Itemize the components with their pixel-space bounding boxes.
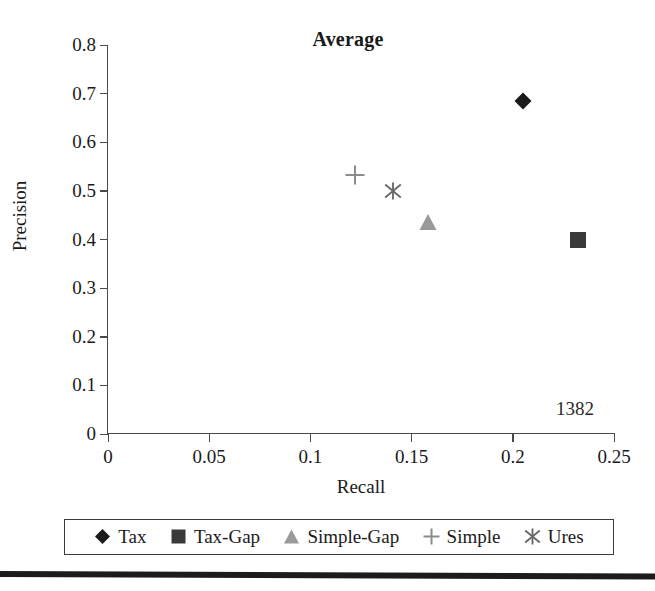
- x-tick-label: 0.1: [270, 447, 350, 466]
- y-tick-mark: [100, 336, 108, 337]
- y-axis-title: Precision: [9, 136, 31, 296]
- x-tick-label: 0: [68, 447, 148, 466]
- x-tick-mark: [108, 434, 109, 442]
- x-axis-title: Recall: [108, 476, 614, 498]
- y-tick-mark: [100, 93, 108, 94]
- y-tick-mark: [100, 45, 108, 46]
- x-tick-label: 0.05: [169, 447, 249, 466]
- data-point-tax-gap: [568, 230, 587, 249]
- data-point-simple: [345, 165, 365, 185]
- legend-item-simple-gap[interactable]: Simple-Gap: [283, 526, 399, 548]
- y-tick-label: 0.7: [36, 84, 96, 103]
- y-tick-mark: [100, 142, 108, 143]
- bottom-divider-rule: [0, 571, 655, 580]
- legend-label: Simple: [447, 526, 501, 548]
- x-tick-mark: [310, 434, 311, 442]
- x-tick-label: 0.2: [473, 447, 553, 466]
- legend-item-simple[interactable]: Simple: [423, 526, 501, 548]
- legend-label: Tax-Gap: [194, 526, 260, 548]
- y-tick-label: 0.8: [36, 35, 96, 54]
- y-tick-label: 0.1: [36, 375, 96, 394]
- data-point-tax: [513, 91, 532, 110]
- y-tick-mark: [100, 385, 108, 386]
- x-tick-label: 0.15: [372, 447, 452, 466]
- legend-item-tax[interactable]: Tax: [94, 526, 146, 548]
- legend-item-tax-gap[interactable]: Tax-Gap: [170, 526, 260, 548]
- diamond-marker-icon: [94, 528, 112, 546]
- x-tick-label: 0.25: [574, 447, 654, 466]
- data-point-simple-gap: [418, 212, 437, 231]
- chart-legend: TaxTax-GapSimple-GapSimpleUres: [64, 519, 614, 555]
- triangle-marker-icon: [283, 528, 301, 546]
- legend-item-ures[interactable]: Ures: [524, 526, 584, 548]
- x-tick-mark: [209, 434, 210, 442]
- y-tick-label: 0.4: [36, 230, 96, 249]
- y-tick-label: 0: [36, 424, 96, 443]
- annotation-1382: 1382: [556, 398, 594, 420]
- x-tick-mark: [614, 434, 615, 442]
- y-tick-label: 0.6: [36, 132, 96, 151]
- legend-label: Simple-Gap: [307, 526, 399, 548]
- scatter-chart-figure: Average 00.10.20.30.40.50.60.70.8 00.050…: [0, 0, 655, 591]
- legend-label: Tax: [118, 526, 146, 548]
- y-tick-mark: [100, 239, 108, 240]
- y-tick-label: 0.3: [36, 278, 96, 297]
- legend-label: Ures: [548, 526, 584, 548]
- plus-marker-icon: [423, 528, 441, 546]
- y-tick-label: 0.5: [36, 181, 96, 200]
- y-tick-mark: [100, 288, 108, 289]
- star-marker-icon: [524, 528, 542, 546]
- y-tick-mark: [100, 190, 108, 191]
- y-tick-label: 0.2: [36, 327, 96, 346]
- data-point-ures: [384, 182, 402, 200]
- plot-area: [108, 45, 614, 434]
- square-marker-icon: [170, 528, 188, 546]
- x-tick-mark: [512, 434, 513, 442]
- x-tick-mark: [411, 434, 412, 442]
